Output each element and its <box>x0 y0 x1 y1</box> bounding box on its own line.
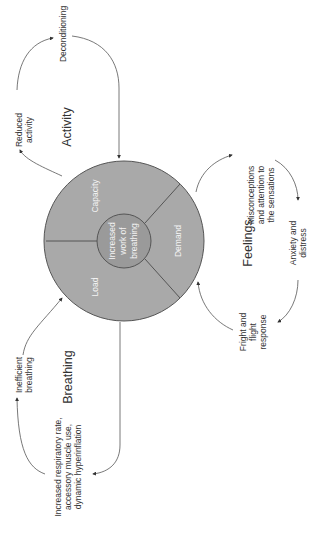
misconceptions-label: Misconceptions and attention to the sens… <box>246 165 276 224</box>
center-label-line-1: Increased <box>107 222 117 260</box>
arrow-fright-to-wheel <box>198 282 233 330</box>
svg-text:dynamic hyperinflation: dynamic hyperinflation <box>73 424 83 509</box>
svg-text:distress: distress <box>298 228 308 257</box>
arrow-inefficient-to-wheel <box>23 298 62 355</box>
arrow-misconceptions-to-anxiety <box>275 160 298 200</box>
svg-text:Inefficient: Inefficient <box>14 356 24 393</box>
deconditioning-label: Deconditioning <box>58 6 68 63</box>
activity-title: Activity <box>60 106 74 146</box>
svg-text:Reduced: Reduced <box>14 113 24 147</box>
breathing-cycle: Inefficient breathing Increased respirat… <box>14 298 120 517</box>
svg-text:breathing: breathing <box>24 357 34 393</box>
svg-text:Misconceptions: Misconceptions <box>246 166 256 225</box>
svg-text:flight: flight <box>248 322 258 341</box>
arrow-wheel-to-reduced-activity <box>20 150 62 176</box>
svg-text:Increased respiratory rate,: Increased respiratory rate, <box>53 417 63 516</box>
svg-text:activity: activity <box>24 116 34 143</box>
reduced-activity-label: Reduced activity <box>14 113 34 147</box>
svg-text:accessory muscle use,: accessory muscle use, <box>63 424 73 510</box>
segment-load-label: Load <box>90 277 100 296</box>
arrow-deconditioning-to-wheel <box>72 36 119 158</box>
arrow-wheel-to-increased-rate <box>93 322 120 474</box>
center-label-line-3: breathing <box>129 223 139 259</box>
breathing-title: Breathing <box>61 350 75 404</box>
arrow-increased-rate-to-inefficient <box>17 398 45 474</box>
svg-text:Anxiety and: Anxiety and <box>288 221 298 266</box>
anxiety-label: Anxiety and distress <box>288 221 308 266</box>
arrow-anxiety-to-fright <box>278 280 298 322</box>
svg-text:response: response <box>258 314 268 349</box>
svg-text:the sensations: the sensations <box>266 168 276 223</box>
work-of-breathing-wheel: Increased work of breathing Capacity Dem… <box>44 161 204 321</box>
increased-respiratory-rate-label: Increased respiratory rate, accessory mu… <box>53 417 83 516</box>
segment-demand-label: Demand <box>173 225 183 257</box>
center-label-line-2: work of <box>118 227 128 256</box>
activity-cycle: Reduced activity Deconditioning Activity <box>14 6 119 176</box>
arrow-reduced-activity-to-deconditioning <box>17 38 53 90</box>
feelings-cycle: Misconceptions and attention to the sens… <box>196 155 308 351</box>
feelings-title: Feelings <box>241 219 255 266</box>
svg-text:Fright and: Fright and <box>238 313 248 352</box>
fright-flight-label: Fright and flight response <box>238 313 268 352</box>
arrow-wheel-to-misconceptions <box>196 155 232 192</box>
diagram-canvas: Increased work of breathing Capacity Dem… <box>0 0 311 533</box>
inefficient-breathing-label: Inefficient breathing <box>14 356 34 393</box>
center-label: Increased work of breathing <box>107 222 139 260</box>
svg-text:and attention to: and attention to <box>256 165 266 224</box>
segment-capacity-label: Capacity <box>90 179 100 213</box>
